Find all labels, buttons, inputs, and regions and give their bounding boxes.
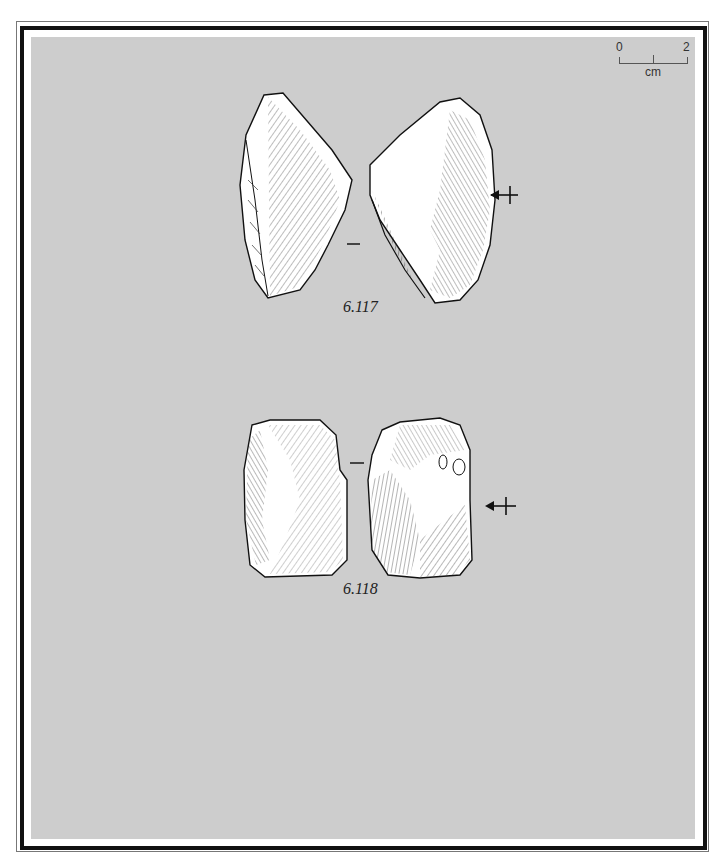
artifact-6-117-ventral-drawing xyxy=(0,0,726,866)
figure-label: 6.118 xyxy=(343,580,378,598)
orientation-arrow-icon xyxy=(485,497,516,515)
figure-label: 6.117 xyxy=(343,298,378,316)
